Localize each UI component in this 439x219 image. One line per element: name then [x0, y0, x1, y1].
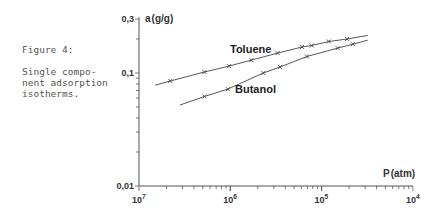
- y-tick-label: 0,3: [121, 14, 134, 24]
- x-tick-label: 106: [223, 193, 237, 205]
- chart-labels: a(g/g) P(atm) Toluene Butanol: [145, 13, 415, 179]
- series-label-toluene: Toluene: [230, 43, 271, 55]
- x-tick-label: 105: [315, 193, 329, 205]
- isotherm-chart: 1071061051040,30,10,01 a(g/g) P(atm) Tol…: [0, 0, 439, 219]
- x-tick-label: 107: [132, 193, 146, 205]
- y-tick-label: 0,1: [121, 68, 134, 78]
- y-tick-label: 0,01: [116, 181, 134, 191]
- x-axis-title: P(atm): [383, 168, 415, 179]
- x-tick-label: 104: [406, 193, 420, 205]
- data-point-marker: [261, 71, 265, 75]
- series-label-butanol: Butanol: [235, 83, 276, 95]
- data-point-marker: [278, 65, 282, 69]
- y-axis-title: a(g/g): [145, 13, 173, 24]
